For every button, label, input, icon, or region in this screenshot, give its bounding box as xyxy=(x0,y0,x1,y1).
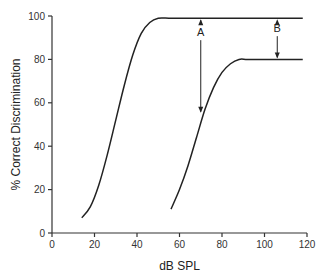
annotation-A: A xyxy=(197,19,205,112)
series-line-normal xyxy=(82,18,303,218)
x-tick-label: 100 xyxy=(256,239,273,250)
y-tick-label: 100 xyxy=(28,11,45,22)
arrow-up-icon xyxy=(198,19,203,25)
x-axis-label: dB SPL xyxy=(159,259,200,273)
x-tick-label: 80 xyxy=(216,239,228,250)
y-tick-label: 20 xyxy=(34,184,46,195)
annotation-label: A xyxy=(197,26,205,38)
arrow-down-icon xyxy=(275,52,280,58)
x-tick-label: 120 xyxy=(299,239,316,250)
y-tick-label: 0 xyxy=(39,228,45,239)
ticks: 020406080100020406080100120 xyxy=(28,11,315,251)
axes xyxy=(52,16,307,233)
chart: 020406080100020406080100120 AB dB SPL % … xyxy=(0,0,325,276)
arrow-down-icon xyxy=(198,107,203,113)
y-axis-label: % Correct Discrimination xyxy=(9,58,23,190)
x-tick-label: 40 xyxy=(131,239,143,250)
x-tick-label: 0 xyxy=(49,239,55,250)
series-line-impaired xyxy=(171,59,303,209)
y-tick-label: 80 xyxy=(34,54,46,65)
annotation-B: B xyxy=(274,19,281,58)
curves xyxy=(82,18,303,218)
annotation-label: B xyxy=(274,22,281,34)
y-tick-label: 40 xyxy=(34,141,46,152)
x-tick-label: 20 xyxy=(89,239,101,250)
x-tick-label: 60 xyxy=(174,239,186,250)
y-tick-label: 60 xyxy=(34,97,46,108)
